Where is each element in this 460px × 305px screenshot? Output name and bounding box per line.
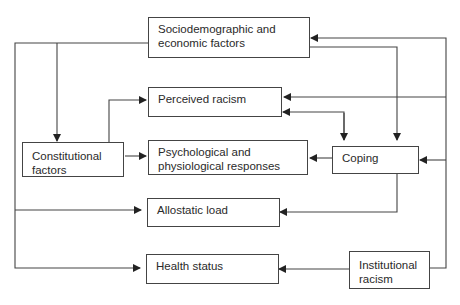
node-perceived-racism: Perceived racism	[148, 87, 282, 117]
node-psych-responses: Psychological and physiological response…	[148, 140, 308, 175]
node-institutional-racism: Institutional racism	[349, 251, 430, 289]
node-constitutional-factors: Constitutional factors	[22, 142, 124, 177]
node-sociodemographic: Sociodemographic and economic factors	[148, 17, 310, 58]
node-coping: Coping	[332, 146, 419, 174]
node-allostatic-load: Allostatic load	[147, 198, 280, 227]
node-health-status: Health status	[146, 254, 279, 284]
